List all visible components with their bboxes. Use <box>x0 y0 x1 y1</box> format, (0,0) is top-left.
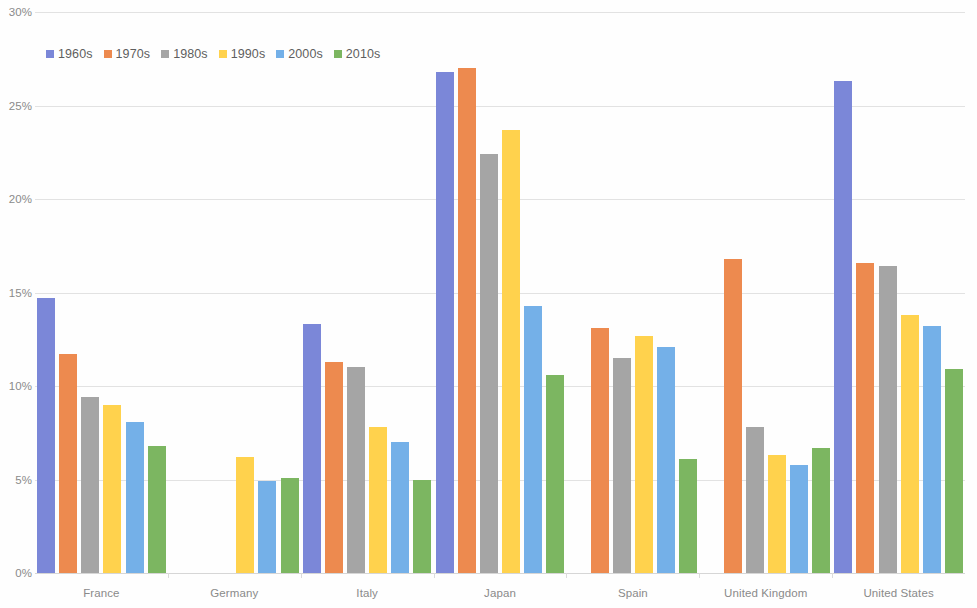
y-tick-label: 5% <box>15 474 32 486</box>
bar-united-states-2010s <box>945 369 963 573</box>
bar-united-states-1980s <box>879 266 897 573</box>
plot-area <box>35 12 965 573</box>
bar-france-1980s <box>81 397 99 573</box>
bar-united-states-1960s <box>834 81 852 573</box>
bar-spain-2010s <box>679 459 697 573</box>
y-tick-label: 10% <box>9 380 32 392</box>
bar-spain-2000s <box>657 347 675 573</box>
bar-japan-2010s <box>546 375 564 573</box>
x-axis: FranceGermanyItalyJapanSpainUnited Kingd… <box>35 573 965 608</box>
bar-italy-1970s <box>325 362 343 573</box>
x-tick-label-united-kingdom: United Kingdom <box>724 587 807 599</box>
bar-germany-1990s <box>236 457 254 573</box>
x-tick-label-spain: Spain <box>618 587 648 599</box>
legend-label: 1960s <box>58 47 93 61</box>
bar-united-kingdom-1970s <box>724 259 742 573</box>
legend-item-1970s[interactable]: 1970s <box>104 47 151 61</box>
legend-item-1990s[interactable]: 1990s <box>219 47 266 61</box>
bar-germany-2000s <box>258 481 276 573</box>
legend-item-2000s[interactable]: 2000s <box>276 47 323 61</box>
bar-germany-2010s <box>281 478 299 573</box>
category-separator <box>301 573 302 578</box>
bar-france-2000s <box>126 422 144 573</box>
bar-japan-1990s <box>502 130 520 573</box>
legend-label: 1970s <box>116 47 151 61</box>
bar-united-states-1970s <box>856 263 874 573</box>
bar-france-1990s <box>103 405 121 573</box>
bar-united-kingdom-1990s <box>768 455 786 573</box>
bar-italy-2000s <box>391 442 409 573</box>
category-separator <box>832 573 833 578</box>
x-tick-label-italy: Italy <box>356 587 378 599</box>
x-tick-label-france: France <box>83 587 119 599</box>
bar-united-kingdom-1980s <box>746 427 764 573</box>
bar-spain-1980s <box>613 358 631 573</box>
legend-label: 2000s <box>288 47 323 61</box>
bar-italy-1980s <box>347 367 365 573</box>
bar-italy-2010s <box>413 480 431 574</box>
legend-swatch-icon <box>276 50 284 58</box>
legend-swatch-icon <box>334 50 342 58</box>
legend-label: 1990s <box>231 47 266 61</box>
y-tick-label: 20% <box>9 193 32 205</box>
legend-swatch-icon <box>219 50 227 58</box>
x-tick-label-united-states: United States <box>863 587 933 599</box>
legend-item-1960s[interactable]: 1960s <box>46 47 93 61</box>
category-separator <box>434 573 435 578</box>
legend-label: 2010s <box>346 47 381 61</box>
bar-japan-1960s <box>436 72 454 573</box>
bar-italy-1960s <box>303 324 321 573</box>
y-tick-label: 30% <box>9 6 32 18</box>
bar-japan-2000s <box>524 306 542 573</box>
legend-item-2010s[interactable]: 2010s <box>334 47 381 61</box>
legend-label: 1980s <box>173 47 208 61</box>
bar-united-states-2000s <box>923 326 941 573</box>
legend-swatch-icon <box>104 50 112 58</box>
chart-legend: 1960s1970s1980s1990s2000s2010s <box>46 47 380 61</box>
bar-japan-1980s <box>480 154 498 573</box>
bar-france-1960s <box>37 298 55 573</box>
bar-spain-1990s <box>635 336 653 573</box>
y-tick-label: 15% <box>9 287 32 299</box>
legend-item-1980s[interactable]: 1980s <box>161 47 208 61</box>
bar-france-2010s <box>148 446 166 573</box>
bar-united-kingdom-2000s <box>790 465 808 573</box>
bar-united-kingdom-2010s <box>812 448 830 573</box>
category-separator <box>566 573 567 578</box>
bar-chart: 0%5%10%15%20%25%30% 1960s1970s1980s1990s… <box>0 0 977 608</box>
y-axis: 0%5%10%15%20%25%30% <box>0 0 35 608</box>
bar-spain-1970s <box>591 328 609 573</box>
bars-layer <box>35 12 965 573</box>
legend-swatch-icon <box>161 50 169 58</box>
legend-swatch-icon <box>46 50 54 58</box>
y-tick-label: 0% <box>15 567 32 579</box>
x-tick-label-germany: Germany <box>210 587 258 599</box>
category-separator <box>168 573 169 578</box>
bar-japan-1970s <box>458 68 476 573</box>
category-separator <box>699 573 700 578</box>
bar-france-1970s <box>59 354 77 573</box>
bar-italy-1990s <box>369 427 387 573</box>
bar-united-states-1990s <box>901 315 919 573</box>
x-tick-label-japan: Japan <box>484 587 516 599</box>
y-tick-label: 25% <box>9 100 32 112</box>
